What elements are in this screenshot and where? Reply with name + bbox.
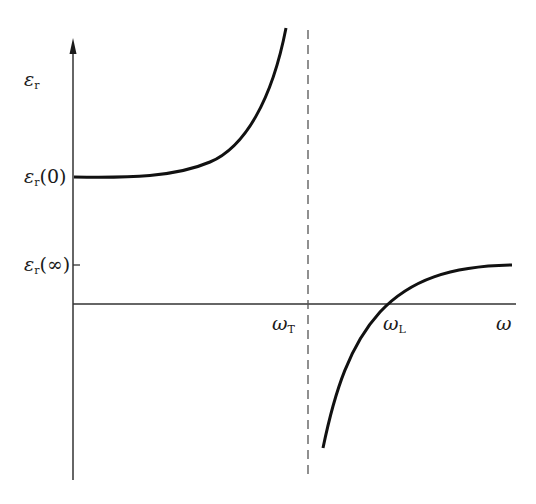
epsinf-label: εr(∞) xyxy=(24,253,70,275)
y-axis-label: εr xyxy=(24,68,39,90)
y-axis-arrow-icon xyxy=(70,38,77,54)
eps0-label: εr(0) xyxy=(24,165,66,187)
branch-below-omegaT xyxy=(74,28,286,177)
dielectric-function-plot xyxy=(0,0,536,504)
branch-above-omegaT xyxy=(323,265,512,448)
x-axis-label: ω xyxy=(496,312,512,334)
omegaT-label: ωT xyxy=(272,312,295,334)
omegaL-label: ωL xyxy=(383,312,406,334)
